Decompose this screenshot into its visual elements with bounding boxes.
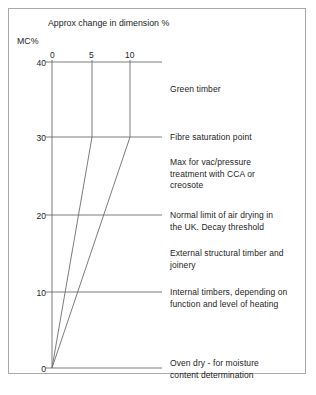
moisture-content-diagram: Approx change in dimension % MC% 0 5 10 … bbox=[0, 0, 316, 395]
x-tick-10: 10 bbox=[125, 50, 134, 60]
annotation-green-timber: Green timber bbox=[170, 84, 221, 96]
diagram-frame bbox=[8, 8, 306, 374]
annotation-air-drying-limit: Normal limit of air drying in the UK. De… bbox=[170, 210, 273, 233]
y-tick-20: 20 bbox=[24, 211, 46, 221]
x-tick-5: 5 bbox=[89, 50, 94, 60]
annotation-internal-timbers: Internal timbers, depending on function … bbox=[170, 287, 287, 310]
chart-title: Approx change in dimension % bbox=[48, 18, 169, 28]
annotation-fibre-saturation-point: Fibre saturation point bbox=[170, 132, 252, 144]
annotation-external-structural-timber: External structural timber and joinery bbox=[170, 248, 284, 271]
y-tick-0: 0 bbox=[24, 364, 46, 374]
y-tick-10: 10 bbox=[24, 288, 46, 298]
y-axis-caption: MC% bbox=[17, 36, 39, 46]
y-tick-40: 40 bbox=[24, 58, 46, 68]
annotation-oven-dry: Oven dry - for moisture content determin… bbox=[170, 358, 259, 381]
annotation-vac-pressure-treatment: Max for vac/pressure treatment with CCA … bbox=[170, 157, 255, 192]
y-tick-30: 30 bbox=[24, 133, 46, 143]
x-tick-0: 0 bbox=[50, 50, 55, 60]
